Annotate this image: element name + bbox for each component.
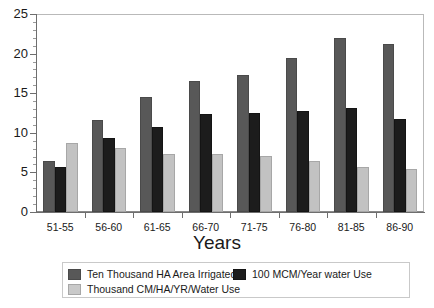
x-axis-tick — [133, 213, 134, 218]
y-axis-tick-label: 5 — [2, 165, 28, 178]
y-axis-tick-label: 25 — [2, 7, 28, 20]
bar-51-55-series-2 — [55, 167, 67, 212]
legend-item-series-3: Thousand CM/HA/YR/Water Use — [68, 283, 240, 295]
bar-61-65-series-2 — [152, 127, 164, 212]
bar-71-75-series-3 — [260, 156, 272, 212]
x-axis-tick — [327, 213, 328, 218]
bars-layer — [36, 14, 424, 212]
legend-swatch-series-3-icon — [68, 284, 81, 295]
bar-76-80-series-1 — [286, 58, 298, 212]
bar-56-60-series-2 — [103, 138, 115, 212]
bar-66-70-series-2 — [200, 114, 212, 212]
bar-76-80-series-3 — [309, 161, 321, 212]
y-axis-tick-label: 0 — [2, 205, 28, 218]
legend-item-series-2: 100 MCM/Year water Use — [233, 268, 372, 280]
legend-label-series-1: Ten Thousand HA Area Irrigated — [87, 268, 236, 280]
y-axis-tick-label: 20 — [2, 47, 28, 60]
legend-label-series-2: 100 MCM/Year water Use — [252, 268, 372, 280]
legend-label-series-3: Thousand CM/HA/YR/Water Use — [87, 283, 240, 295]
legend-swatch-series-2-icon — [233, 269, 246, 280]
bar-71-75-series-2 — [249, 113, 261, 212]
bar-51-55-series-3 — [66, 143, 78, 212]
x-axis-tick — [376, 213, 377, 218]
bar-56-60-series-1 — [92, 120, 104, 212]
bar-71-75-series-1 — [237, 75, 249, 212]
x-axis-tick — [279, 213, 280, 218]
bar-86-90-series-2 — [394, 119, 406, 212]
chart-legend: Ten Thousand HA Area Irrigated 100 MCM/Y… — [62, 262, 410, 298]
bar-56-60-series-3 — [115, 148, 127, 212]
bar-66-70-series-1 — [189, 81, 201, 212]
bar-61-65-series-1 — [140, 97, 152, 212]
legend-swatch-series-1-icon — [68, 269, 81, 280]
x-axis-tick — [182, 213, 183, 218]
bar-86-90-series-3 — [406, 169, 418, 212]
y-axis-tick-major — [30, 212, 36, 213]
bar-51-55-series-1 — [43, 161, 55, 212]
x-axis-tick — [230, 213, 231, 218]
bar-81-85-series-1 — [334, 38, 346, 212]
bar-76-80-series-2 — [297, 111, 309, 212]
bar-86-90-series-1 — [383, 44, 395, 212]
bar-66-70-series-3 — [212, 154, 224, 212]
y-axis-tick-label: 15 — [2, 86, 28, 99]
bar-81-85-series-2 — [346, 108, 358, 212]
bar-81-85-series-3 — [357, 167, 369, 212]
bar-chart: 0510152025 51-5556-6061-6566-7071-7576-8… — [0, 0, 434, 308]
x-axis-tick — [85, 213, 86, 218]
legend-item-series-1: Ten Thousand HA Area Irrigated — [68, 268, 236, 280]
y-axis-tick-label: 10 — [2, 126, 28, 139]
x-axis-title: Years — [0, 232, 434, 254]
bar-61-65-series-3 — [163, 154, 175, 212]
